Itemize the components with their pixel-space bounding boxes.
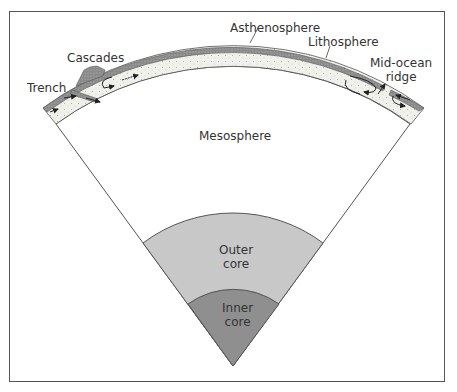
mid-ocean-ridge-label: Mid-ocean ridge	[370, 56, 432, 84]
outer-core-line1: Outer	[219, 243, 253, 257]
asthenosphere-label: Asthenosphere	[230, 21, 320, 35]
lithosphere-label: Lithosphere	[308, 35, 379, 49]
mid-ocean-ridge-line2: ridge	[370, 70, 432, 84]
outer-core-label: Outer core	[219, 243, 253, 271]
inner-core-line2: core	[222, 315, 253, 329]
inner-core-label: Inner core	[222, 301, 253, 329]
trench-label: Trench	[27, 81, 66, 95]
cascades-label: Cascades	[67, 51, 124, 65]
mid-ocean-ridge-line1: Mid-ocean	[370, 56, 432, 70]
inner-core-line1: Inner	[222, 301, 253, 315]
outer-core-line2: core	[219, 257, 253, 271]
mesosphere-label: Mesosphere	[199, 129, 271, 143]
